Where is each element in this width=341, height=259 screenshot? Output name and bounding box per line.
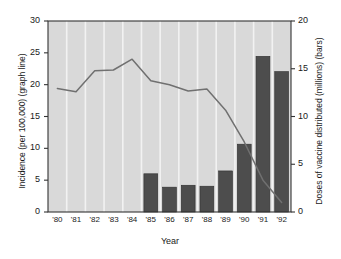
y-tick-label-right: 15 bbox=[298, 64, 316, 73]
y-tick-label-right: 20 bbox=[298, 16, 316, 25]
bar-group bbox=[237, 144, 251, 212]
y-tick-label-left: 5 bbox=[22, 175, 40, 184]
bar-group bbox=[200, 186, 214, 212]
bar-group bbox=[181, 185, 195, 212]
bar-group bbox=[219, 171, 233, 212]
bar-group bbox=[144, 174, 158, 212]
x-tick-label: '92 bbox=[271, 215, 293, 224]
y-tick-label-left: 10 bbox=[22, 143, 40, 152]
bar bbox=[237, 144, 251, 212]
y-tick-label-right: 5 bbox=[298, 159, 316, 168]
bar bbox=[275, 72, 289, 212]
figure-container: Incidence (per 100,000) (graph line) Dos… bbox=[0, 0, 341, 259]
y-tick-label-right: 10 bbox=[298, 112, 316, 121]
bar bbox=[256, 56, 270, 212]
bar bbox=[219, 171, 233, 212]
plot-background-layer bbox=[48, 21, 291, 212]
bar-group bbox=[275, 72, 289, 212]
plot-area-background bbox=[48, 21, 291, 212]
bar-group bbox=[256, 56, 270, 212]
y-tick-label-left: 30 bbox=[22, 16, 40, 25]
y-tick-label-left: 20 bbox=[22, 80, 40, 89]
bar bbox=[163, 187, 177, 212]
bar bbox=[181, 185, 195, 212]
y-tick-label-left: 25 bbox=[22, 48, 40, 57]
y-tick-label-left: 15 bbox=[22, 112, 40, 121]
bar bbox=[200, 186, 214, 212]
bar bbox=[144, 174, 158, 212]
bar-group bbox=[163, 187, 177, 212]
y-tick-label-left: 0 bbox=[22, 207, 40, 216]
y-tick-label-right: 0 bbox=[298, 207, 316, 216]
